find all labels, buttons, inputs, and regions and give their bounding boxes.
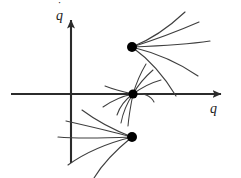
equilibrium-point-lower <box>127 132 137 142</box>
phase-portrait-canvas <box>0 0 241 178</box>
trajectory-curve <box>133 70 153 94</box>
y-axis-label-text: q <box>56 8 63 23</box>
trajectory-curve <box>82 110 132 137</box>
trajectory-curve <box>132 12 185 47</box>
y-axis-label: ˙ q <box>56 4 63 23</box>
phase-portrait-figure: ˙ q q <box>0 0 241 178</box>
trajectory-curve <box>58 137 132 138</box>
trajectory-curve <box>68 137 132 165</box>
equilibrium-points <box>127 42 138 142</box>
equilibrium-point-upper <box>127 42 137 52</box>
trajectories-upper-node <box>132 12 210 96</box>
trajectories-lower-node <box>58 110 132 178</box>
x-axis-label: q <box>210 102 217 116</box>
equilibrium-point-center <box>128 89 137 98</box>
trajectory-curve <box>66 121 132 137</box>
trajectory-curve <box>132 47 176 96</box>
